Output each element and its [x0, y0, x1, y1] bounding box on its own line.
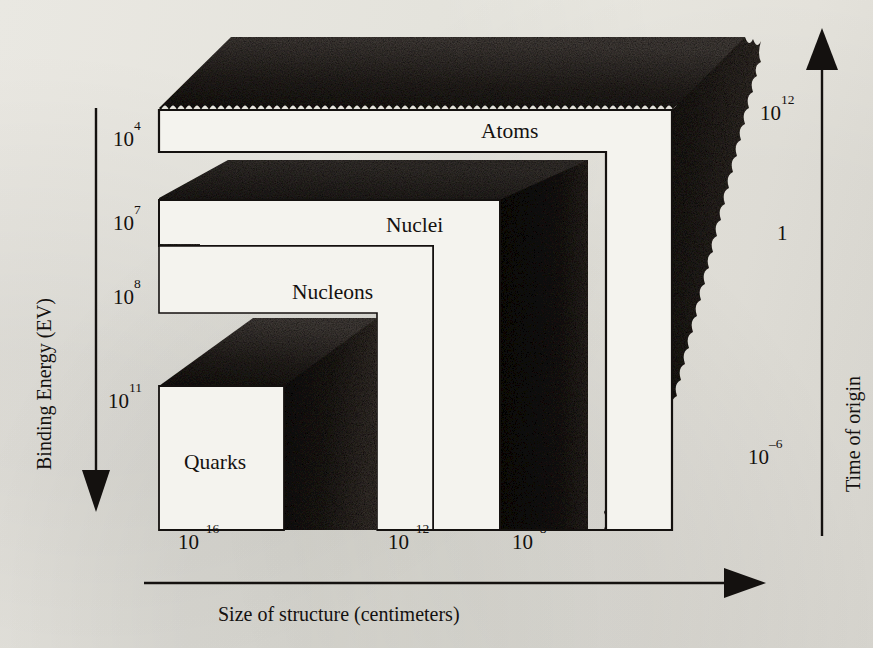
left-axis: [82, 108, 110, 512]
right-axis: [806, 28, 838, 536]
bottom-tick-1: 10–12: [388, 530, 429, 553]
left-tick-2: 108: [113, 285, 141, 308]
up-arrow-icon: [806, 28, 838, 70]
right-tick-1: 1: [777, 221, 788, 244]
region-label-nuclei: Nuclei: [386, 215, 443, 237]
left-tick-0: 104: [113, 127, 141, 150]
right-tick-0: 1012: [760, 101, 795, 124]
right-tick-2: 10–6: [748, 445, 783, 468]
quarks-block: [159, 318, 377, 530]
bottom-tick-0: 10–16: [178, 530, 219, 553]
left-tick-3: 1011: [108, 389, 142, 412]
region-label-atoms: Atoms: [481, 121, 538, 143]
down-arrow-icon: [82, 470, 110, 512]
bottom-axis: [144, 568, 766, 598]
right-axis-title: Time of origin: [843, 376, 863, 492]
left-tick-1: 107: [113, 211, 141, 234]
right-arrow-icon: [724, 568, 766, 598]
bottom-axis-title: Size of structure (centimeters): [218, 604, 460, 624]
structure-scale-diagram: [0, 0, 873, 648]
region-label-quarks: Quarks: [184, 452, 246, 474]
bottom-tick-2: 10–8: [512, 530, 547, 553]
region-label-nucleons: Nucleons: [292, 282, 373, 304]
left-axis-title: Binding Energy (EV): [34, 298, 54, 470]
figure-canvas: 104 107 108 1011 10–16 10–12 10–8 1012 1…: [0, 0, 873, 648]
